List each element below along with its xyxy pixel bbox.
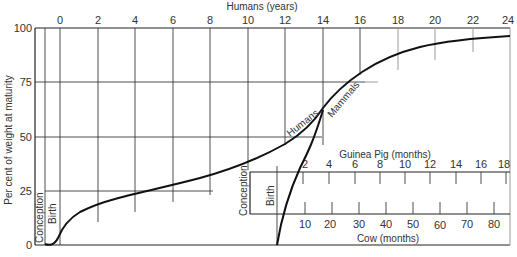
- inset-birth-label: Birth: [265, 185, 276, 206]
- top-tick: 24: [502, 14, 514, 26]
- top-tick: 12: [279, 14, 291, 26]
- y-axis-label: Per cent of weight at maturity: [3, 75, 14, 205]
- guinea-tick: 18: [498, 158, 510, 170]
- y-axis-ticks: 0 25 50 75 100: [14, 22, 32, 251]
- inset-conception-label: Conception: [238, 165, 249, 216]
- cow-tick: 10: [299, 218, 311, 230]
- cow-tick: 60: [434, 219, 446, 231]
- guinea-tick: 8: [377, 158, 383, 170]
- top-tick: 16: [354, 14, 366, 26]
- conception-label: Conception: [34, 192, 45, 243]
- y-tick: 100: [14, 22, 32, 34]
- top-tick: 18: [392, 14, 404, 26]
- y-tick: 0: [26, 239, 32, 251]
- cow-tick: 50: [407, 218, 419, 230]
- top-tick: 2: [95, 14, 101, 26]
- cow-tick: 40: [380, 218, 392, 230]
- plot-frame: [35, 28, 510, 245]
- top-tick: 22: [467, 14, 479, 26]
- top-tick: 0: [57, 14, 63, 26]
- cow-tick: 70: [461, 218, 473, 230]
- y-tick: 75: [20, 76, 32, 88]
- growth-chart: Humans (years) 0 2 4 6 8 10 12 14 16 18 …: [0, 0, 517, 257]
- top-axis-label: Humans (years): [226, 1, 297, 12]
- birth-label: Birth: [47, 203, 58, 224]
- guinea-tick: 4: [326, 158, 332, 170]
- y-tick: 50: [20, 131, 32, 143]
- cow-tick: 20: [324, 218, 336, 230]
- top-axis-ticks: 0 2 4 6 8 10 12 14 16 18 20 22 24: [57, 14, 514, 26]
- top-tick: 10: [242, 14, 254, 26]
- guinea-tick: 14: [450, 158, 462, 170]
- horizontal-gridlines: [35, 82, 378, 191]
- cow-axis-label: Cow (months): [357, 233, 419, 244]
- top-tick: 6: [170, 14, 176, 26]
- top-tick: 8: [207, 14, 213, 26]
- guinea-tick: 6: [352, 158, 358, 170]
- cow-ticks: 10 20 30 40 50 60 70 80: [299, 202, 500, 231]
- y-tick: 25: [20, 185, 32, 197]
- guinea-tick: 12: [424, 158, 436, 170]
- top-tick: 4: [132, 14, 138, 26]
- top-tick: 14: [317, 14, 329, 26]
- cow-tick: 80: [488, 218, 500, 230]
- guinea-tick: 10: [399, 158, 411, 170]
- top-tick: 20: [429, 14, 441, 26]
- guinea-tick: 16: [475, 158, 487, 170]
- vertical-gridlines: [45, 28, 473, 245]
- guinea-pig-ticks: 2 4 6 8 10 12 14 16 18: [302, 158, 510, 184]
- cow-tick: 30: [353, 218, 365, 230]
